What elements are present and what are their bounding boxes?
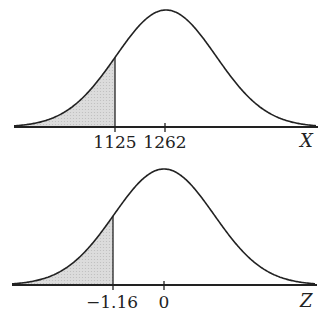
shaded-tail-region (14, 57, 115, 127)
bottom-z-distribution (12, 169, 317, 290)
z-axis-label: Z (300, 292, 313, 310)
x-axis-label: X (300, 132, 313, 150)
normal-curves-diagram (0, 0, 324, 323)
top-x-distribution (14, 10, 318, 132)
x-cut-label: 1125 (93, 134, 136, 151)
normal-curve (14, 10, 316, 126)
z-mean-label: 0 (159, 294, 170, 311)
normal-curve (12, 169, 315, 284)
shaded-tail-region (12, 216, 113, 285)
z-cut-label: −1.16 (86, 294, 138, 311)
x-mean-label: 1262 (143, 134, 186, 151)
